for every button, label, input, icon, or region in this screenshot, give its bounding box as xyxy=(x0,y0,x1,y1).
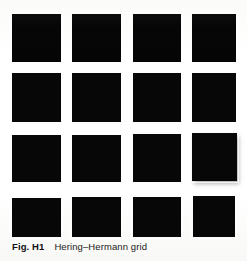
grid-square-r3-c3 xyxy=(133,134,181,182)
grid-square-r3-c4 xyxy=(192,133,237,181)
grid-square-r2-c2 xyxy=(72,73,121,122)
figure-caption: Fig. H1 Hering–Hermann grid xyxy=(12,241,240,257)
grid-square-r3-c2 xyxy=(72,135,121,182)
grid-square-r4-c4 xyxy=(193,196,235,237)
figure-caption-text: Hering–Hermann grid xyxy=(54,241,147,252)
grid-square-r3-c1 xyxy=(12,135,61,182)
figure-hering-hermann-grid: Fig. H1 Hering–Hermann grid xyxy=(0,0,247,261)
grid-square-r1-c3 xyxy=(133,14,181,62)
grid-square-r4-c2 xyxy=(72,197,121,237)
grid-square-r1-c4 xyxy=(192,14,236,62)
grid-square-r1-c1 xyxy=(12,14,61,62)
grid-square-r1-c2 xyxy=(72,14,121,62)
grid-square-r4-c1 xyxy=(12,198,61,237)
grid-square-r4-c3 xyxy=(133,197,181,237)
grid-square-r2-c4 xyxy=(192,73,236,122)
figure-number-label: Fig. H1 xyxy=(12,241,44,252)
grid-plate xyxy=(0,0,247,241)
grid-square-r2-c1 xyxy=(12,73,61,122)
grid-square-r2-c3 xyxy=(133,73,181,122)
